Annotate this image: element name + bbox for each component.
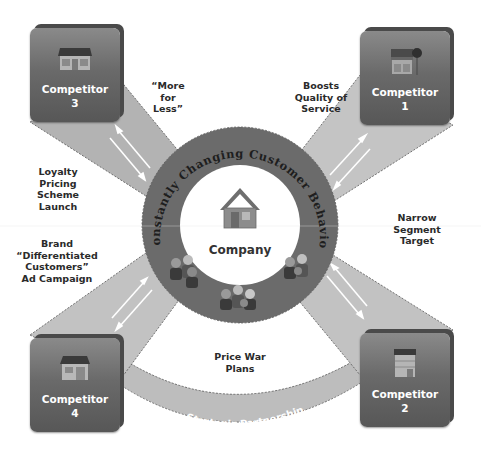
office-building-icon (387, 347, 423, 381)
competitor-3-label: Competitor 3 (30, 82, 120, 110)
competitor-2-box[interactable]: Competitor 2 (360, 333, 450, 427)
competitive-diagram: Constantly Changing Customer Behavior (0, 0, 481, 456)
competitor-3-box[interactable]: Competitor 3 (30, 28, 120, 122)
label-loyalty-pricing: Loyalty Pricing Scheme Launch (28, 166, 88, 212)
competitor-1-label: Competitor 1 (360, 85, 450, 113)
shop-icon (57, 42, 93, 76)
label-more-for-less: “More for Less” (138, 80, 198, 115)
label-brand-campaign: Brand “Differentiated Customers” Ad Camp… (16, 238, 98, 284)
competitor-4-box[interactable]: Competitor 4 (30, 338, 120, 432)
storefront-icon (387, 45, 423, 79)
house-shop-icon (57, 352, 93, 386)
company-label: Company (200, 243, 280, 257)
label-narrow-segment: Narrow Segment Target (382, 212, 452, 247)
label-price-war: Price War Plans (205, 351, 275, 374)
competitor-4-label: Competitor 4 (30, 392, 120, 420)
competitor-2-label: Competitor 2 (360, 387, 450, 415)
label-boosts-quality: Boosts Quality of Service (286, 80, 356, 115)
competitor-1-box[interactable]: Competitor 1 (360, 31, 450, 125)
